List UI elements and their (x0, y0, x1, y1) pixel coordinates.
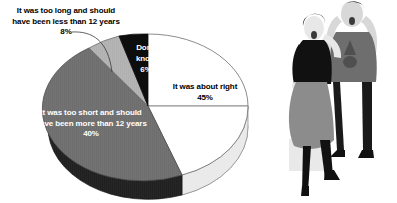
label-too-short-line2: have been more than 12 years (35, 119, 146, 128)
label-dont-know-percent: 6% (140, 65, 151, 74)
back-figure-shoe-left (330, 150, 345, 157)
woman-boot-left (301, 186, 309, 196)
label-too-long-percent: 8% (60, 27, 71, 36)
label-about-right-line1: It was about right (173, 82, 237, 91)
woman-boot-right (324, 170, 340, 180)
back-figure-leg-right (362, 82, 372, 150)
woman-mouth (311, 31, 317, 39)
label-too-short-percent: 40% (83, 129, 99, 138)
label-too-short-line1: It was too short and should (40, 108, 141, 117)
pie-chart-figure: It was too long and shouldhave been less… (0, 0, 397, 203)
back-figure-leg-left (333, 82, 344, 150)
label-dont-know-line1: Don't (136, 43, 156, 52)
back-figure-print-circle (343, 56, 357, 68)
label-about-right-percent: 45% (197, 93, 213, 102)
label-too-long-line2: have been less than 12 years (12, 17, 120, 26)
label-too-long-line1: It was too long and should (17, 6, 115, 15)
back-figure-mouth (349, 17, 355, 25)
label-too-short: It was too short and shouldhave been mor… (25, 108, 157, 140)
label-dont-know-line2: know (136, 54, 156, 63)
woman-skirt (289, 82, 334, 149)
label-dont-know: Don'tknow6% (124, 42, 168, 75)
back-figure-shoe-right (358, 150, 374, 158)
label-about-right: It was about right45% (163, 82, 247, 103)
label-too-long: It was too long and shouldhave been less… (2, 6, 130, 38)
